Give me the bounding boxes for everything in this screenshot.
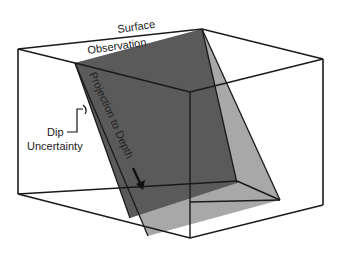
fault-projection-diagram: Surface Observation Projection to Depth … bbox=[0, 0, 339, 253]
dip-uncertainty-leader bbox=[67, 105, 86, 132]
dip-uncertainty-label-line1: Dip bbox=[47, 126, 64, 138]
surface-observation-label-line1: Surface bbox=[117, 18, 156, 35]
dip-uncertainty-label-line2: Uncertainty bbox=[27, 140, 83, 152]
